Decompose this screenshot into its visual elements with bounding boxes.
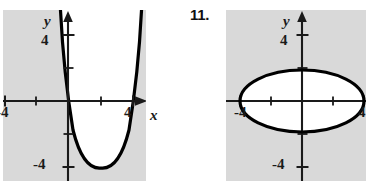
x-axis-tick-label-neg4-right: -4 [234,105,247,120]
figure-left-parabola: y 4 -4 -4 4 x [0,0,190,181]
y-axis-tick-label-4-left: 4 [41,33,49,48]
x-axis-variable-label-left: x [150,108,158,123]
x-axis-tick-label-4-left: 4 [124,105,132,120]
plot-area-right [226,10,366,181]
plot-area-left [3,10,146,181]
figure-right-ellipse: 11. [186,0,378,181]
y-axis-tick-label-neg4-left: -4 [33,157,46,172]
ellipse-graph-svg [226,10,366,181]
problem-number-label: 11. [190,6,209,23]
x-axis-tick-label-4-right: 4 [358,105,366,120]
y-axis-tick-label-4-right: 4 [280,33,288,48]
y-axis-tick-label-neg4-right: -4 [272,157,285,172]
parabola-graph-svg [3,10,146,181]
figure-page: y 4 -4 -4 4 x 11. [0,0,378,181]
y-axis-variable-label-left: y [44,14,51,29]
y-axis-variable-label-right: y [283,14,290,29]
x-axis-tick-label-neg4-left: -4 [0,105,9,120]
